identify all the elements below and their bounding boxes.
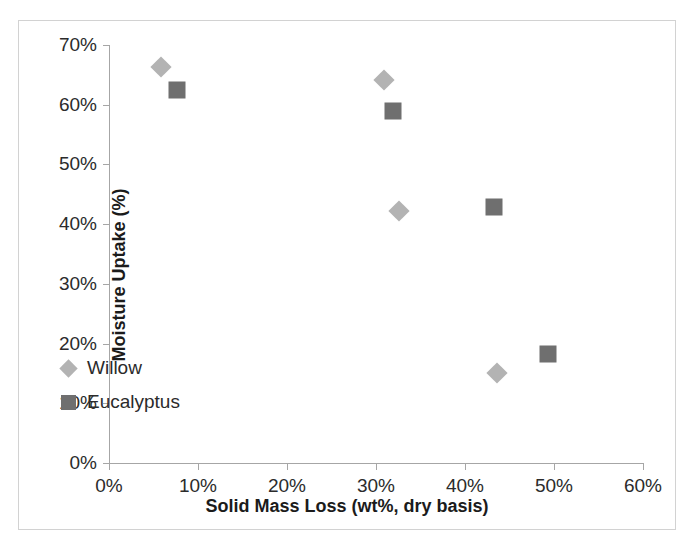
chart-legend: WillowEucalyptus: [55, 351, 180, 419]
legend-swatch: [61, 395, 76, 410]
x-tick-label: 20%: [268, 475, 306, 497]
chart-figure: Moisture Uptake (%) Solid Mass Loss (wt%…: [18, 20, 676, 530]
legend-label: Eucalyptus: [87, 391, 180, 413]
x-axis-title: Solid Mass Loss (wt%, dry basis): [19, 496, 675, 517]
y-tick-mark: [103, 284, 109, 285]
y-tick-label: 70%: [59, 34, 97, 56]
x-tick-mark: [109, 464, 110, 470]
y-tick-mark: [103, 164, 109, 165]
x-tick-label: 60%: [624, 475, 662, 497]
data-point-willow[interactable]: [373, 69, 394, 90]
plot-area: 0%10%20%30%40%50%60%70% 0%10%20%30%40%50…: [109, 45, 643, 463]
x-tick-label: 50%: [535, 475, 573, 497]
y-tick-label: 30%: [59, 273, 97, 295]
legend-item-eucalyptus[interactable]: Eucalyptus: [55, 385, 180, 419]
y-tick-label: 40%: [59, 213, 97, 235]
x-tick-mark: [287, 464, 288, 470]
data-point-willow[interactable]: [486, 362, 507, 383]
y-tick-label: 60%: [59, 94, 97, 116]
x-tick-mark: [554, 464, 555, 470]
legend-square-icon: [55, 395, 81, 410]
x-tick-label: 40%: [446, 475, 484, 497]
y-tick-label: 0%: [70, 452, 97, 474]
x-tick-mark: [198, 464, 199, 470]
data-point-eucalyptus[interactable]: [384, 103, 401, 120]
data-point-eucalyptus[interactable]: [539, 345, 556, 362]
data-point-eucalyptus[interactable]: [168, 81, 185, 98]
data-point-eucalyptus[interactable]: [486, 198, 503, 215]
y-tick-mark: [103, 224, 109, 225]
y-tick-label: 50%: [59, 153, 97, 175]
x-tick-label: 10%: [179, 475, 217, 497]
x-tick-label: 30%: [357, 475, 395, 497]
x-tick-mark: [465, 464, 466, 470]
legend-label: Willow: [87, 357, 142, 379]
y-tick-mark: [103, 344, 109, 345]
x-tick-mark: [643, 464, 644, 470]
data-point-willow[interactable]: [389, 200, 410, 221]
legend-swatch: [59, 359, 77, 377]
y-tick-mark: [103, 105, 109, 106]
legend-diamond-icon: [55, 362, 81, 375]
x-tick-label: 0%: [95, 475, 122, 497]
data-point-willow[interactable]: [150, 56, 171, 77]
x-tick-mark: [376, 464, 377, 470]
legend-item-willow[interactable]: Willow: [55, 351, 180, 385]
y-tick-mark: [103, 45, 109, 46]
